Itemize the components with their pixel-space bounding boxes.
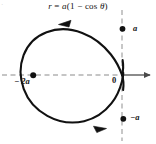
point-label-neg-a: −a: [130, 113, 139, 122]
point-marker-neg-a: [120, 116, 126, 122]
origin-label: 0: [112, 76, 116, 85]
cardioid-cusp-upper: [122, 60, 123, 75]
point-marker-neg-2a: [30, 72, 36, 78]
polar-curve-figure: · r = a(1 − cos θ) a −a − 2a 0: [0, 0, 156, 144]
point-label-neg-2a: − 2a: [14, 77, 30, 86]
direction-arrow-lower: [94, 126, 107, 132]
polar-plot-canvas: [0, 0, 156, 144]
direction-arrow-upper: [59, 20, 72, 27]
point-label-a: a: [133, 24, 137, 33]
point-marker-a: [120, 26, 126, 32]
